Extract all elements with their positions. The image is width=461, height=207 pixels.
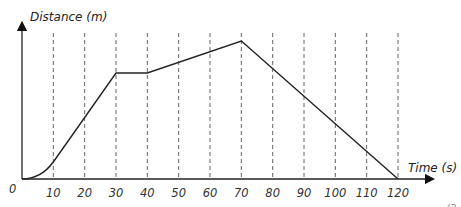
x-tick-label: 30 [109, 186, 124, 200]
corner-fragment: (3 [446, 203, 456, 207]
origin-label: 0 [9, 182, 16, 196]
x-tick-label: 20 [77, 186, 92, 200]
x-axis-label: Time (s) [408, 161, 457, 175]
y-axis-label: Distance (m) [30, 10, 107, 24]
x-tick-label: 90 [297, 186, 312, 200]
x-tick-label: 70 [234, 186, 249, 200]
x-tick-label: 120 [387, 186, 409, 200]
x-tick-label: 100 [324, 186, 346, 200]
x-tick-label: 110 [356, 186, 378, 200]
vertical-gridlines [53, 33, 398, 179]
x-tick-label: 40 [140, 186, 155, 200]
distance-time-graph: Distance (m) Time (s) 0 1020304050607080… [0, 0, 461, 207]
x-tick-label: 80 [265, 186, 280, 200]
x-tick-label: 60 [203, 186, 218, 200]
x-tick-label: 50 [171, 186, 186, 200]
x-tick-label: 10 [46, 186, 61, 200]
x-tick-labels: 102030405060708090100110120 [46, 186, 409, 200]
